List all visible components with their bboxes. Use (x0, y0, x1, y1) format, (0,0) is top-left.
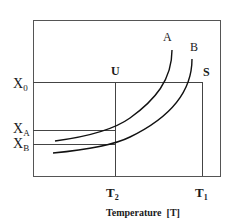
x-axis-title: Temperature [T] (106, 207, 180, 218)
diagram-canvas: A B U S X0 XA XB T2 T1 Temperature [T] (0, 0, 235, 222)
x-tick-t2: T2 (106, 185, 119, 202)
point-s-label: S (203, 65, 210, 79)
curve-a-label: A (163, 30, 172, 44)
curve-b-label: B (190, 40, 198, 54)
point-u-label: U (111, 64, 120, 78)
x-tick-t1: T1 (195, 185, 208, 202)
y-tick-xb: XB (13, 136, 29, 153)
y-tick-x0: X0 (13, 76, 28, 93)
curve-b (53, 59, 192, 153)
